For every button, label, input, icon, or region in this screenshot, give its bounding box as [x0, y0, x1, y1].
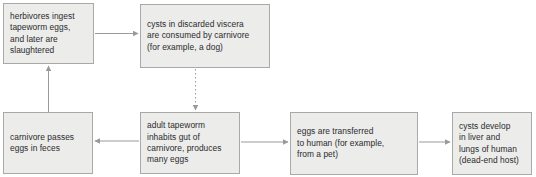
node-cysts-develop-in-human: cysts develop in liver and lungs of huma…	[452, 112, 532, 175]
node-label: cysts develop in liver and lungs of huma…	[453, 121, 531, 167]
node-label: eggs are transferred to human (for examp…	[291, 126, 417, 160]
node-cysts-in-discarded-viscera: cysts in discarded viscera are consumed …	[140, 4, 270, 68]
node-label: herbivores ingest tapeworm eggs, and lat…	[4, 11, 93, 57]
node-carnivore-passes-eggs: carnivore passes eggs in feces	[3, 112, 93, 174]
tapeworm-lifecycle-diagram: herbivores ingest tapeworm eggs, and lat…	[0, 0, 536, 177]
node-adult-tapeworm-gut: adult tapeworm inhabits gut of carnivore…	[140, 112, 240, 174]
node-eggs-transferred-to-human: eggs are transferred to human (for examp…	[290, 112, 418, 175]
node-label: cysts in discarded viscera are consumed …	[141, 19, 269, 53]
node-label: carnivore passes eggs in feces	[4, 132, 92, 155]
node-herbivores-ingest: herbivores ingest tapeworm eggs, and lat…	[3, 3, 94, 64]
node-label: adult tapeworm inhabits gut of carnivore…	[141, 120, 239, 166]
